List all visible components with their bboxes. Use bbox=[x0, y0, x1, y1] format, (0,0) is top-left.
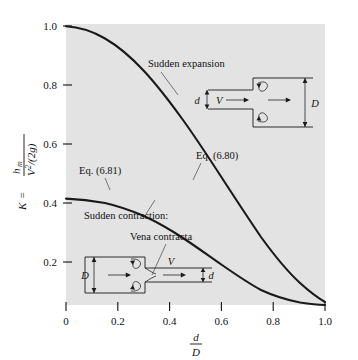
y-axis-label: K = h m V 2 /(2g) bbox=[10, 134, 38, 211]
y-axis-label-numerator-subscript: m bbox=[15, 161, 24, 167]
annotation-eq-681: Eq. (6.81) bbox=[79, 165, 122, 177]
expansion-label-d: d bbox=[194, 95, 200, 106]
y-tick-label-1.0: 1.0 bbox=[43, 20, 57, 32]
x-tick-label-0.8: 0.8 bbox=[266, 315, 280, 327]
y-tick-label-0.4: 0.4 bbox=[43, 197, 57, 209]
x-axis-label-denominator: D bbox=[191, 346, 200, 358]
x-axis-label-numerator: d bbox=[193, 331, 199, 343]
y-tick-label-0.6: 0.6 bbox=[43, 138, 57, 150]
annotation-vena-contracta: Vena contracta bbox=[130, 231, 192, 242]
x-tick-label-0.2: 0.2 bbox=[111, 315, 125, 327]
y-axis-label-k: K bbox=[16, 202, 28, 211]
x-tick-label-0.4: 0.4 bbox=[163, 315, 177, 327]
x-tick-label-1.0: 1.0 bbox=[318, 315, 332, 327]
contraction-label-D: D bbox=[80, 270, 89, 281]
annotation-eq-680: Eq. (6.80) bbox=[196, 150, 239, 162]
y-axis-label-denominator-tail: /(2g) bbox=[25, 143, 38, 166]
figure-page: 1.0 0.8 0.6 0.4 0.2 K = h m V 2 /(2g) bbox=[0, 0, 358, 360]
x-axis: 0 0.2 0.4 0.6 0.8 1.0 bbox=[63, 302, 332, 327]
contraction-label-d: d bbox=[208, 270, 214, 281]
annotation-sudden-expansion: Sudden expansion bbox=[148, 58, 225, 69]
y-axis-label-numerator: h bbox=[10, 168, 22, 174]
y-axis-label-equals: = bbox=[16, 192, 28, 199]
y-tick-label-0.8: 0.8 bbox=[43, 79, 57, 91]
loss-coefficient-chart: 1.0 0.8 0.6 0.4 0.2 K = h m V 2 /(2g) bbox=[0, 0, 358, 360]
x-axis-label: d D bbox=[190, 331, 202, 358]
expansion-label-D: D bbox=[310, 98, 319, 109]
x-tick-label-0.6: 0.6 bbox=[215, 315, 229, 327]
x-tick-label-0: 0 bbox=[63, 315, 69, 327]
y-tick-label-0.2: 0.2 bbox=[43, 256, 57, 268]
annotation-sudden-contraction: Sudden contraction: bbox=[84, 210, 168, 221]
